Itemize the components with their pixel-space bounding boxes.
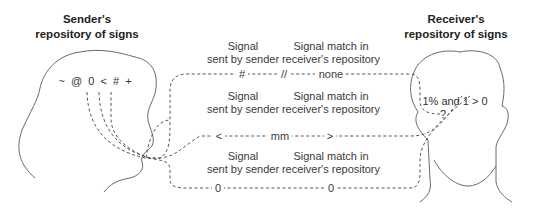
row2-match-label-1: Signal match in (293, 90, 368, 102)
row1-sent-value: # (239, 68, 246, 80)
row1-match-label-2: receiver's repository (282, 53, 381, 65)
row2-match-label-2: receiver's repository (282, 103, 381, 115)
row1-match-label-1: Signal match in (293, 40, 368, 52)
row3-sent-value: 0 (215, 182, 221, 194)
row3-sent-label-2: sent by sender (207, 163, 279, 175)
communication-diagram: Sender's repository of signs Receiver's … (0, 0, 551, 216)
receiver-jaw (434, 160, 496, 186)
row2-match-value: > (327, 130, 333, 142)
row1-match-value: none (319, 68, 343, 80)
row1-mid-marker: // (281, 68, 288, 80)
signal-path-lt (99, 92, 462, 158)
sender-title-line2: repository of signs (35, 28, 139, 40)
row2-mid-marker: mm (271, 130, 289, 142)
receiver-head-outline (411, 51, 512, 202)
row1-sent-label-1: Signal (228, 40, 259, 52)
sender-head-outline (19, 50, 156, 192)
row3-sent-label-1: Signal (228, 150, 259, 162)
row3-match-value: 0 (328, 182, 334, 194)
signal-path-hash (111, 74, 440, 158)
row2-sent-value: < (216, 130, 222, 142)
row2-sent-label-1: Signal (228, 90, 259, 102)
receiver-title-line1: Receiver's (427, 13, 484, 25)
row1-sent-label-2: sent by sender (207, 53, 279, 65)
sender-title-line1: Sender's (63, 13, 111, 25)
receiver-title-line2: repository of signs (404, 28, 508, 40)
row2-sent-label-2: sent by sender (207, 103, 279, 115)
row3-match-label-1: Signal match in (293, 150, 368, 162)
sender-signs: ~ @ 0 < # + (58, 75, 131, 87)
row3-match-label-2: receiver's repository (282, 163, 381, 175)
